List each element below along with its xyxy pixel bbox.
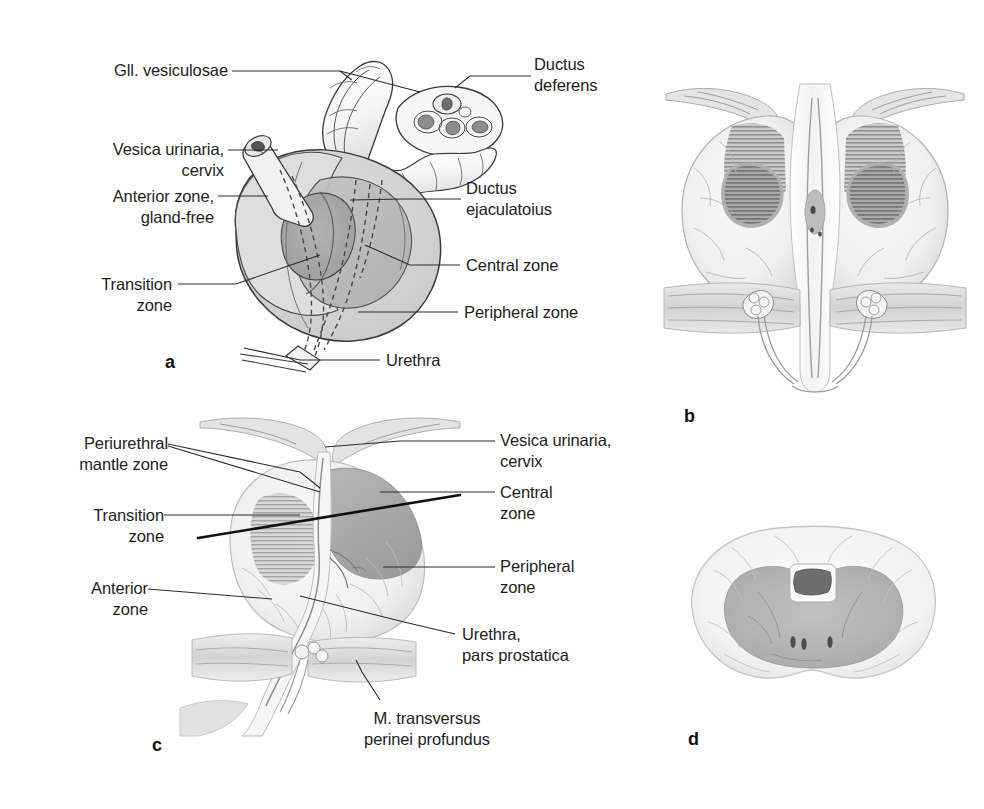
label-vesica-urinaria-cervix-a: Vesica urinaria,cervix bbox=[32, 139, 224, 181]
label-urethra-pars-prostatica: Urethra,pars prostatica bbox=[462, 624, 672, 666]
label-vesica-urinaria-cervix-c: Vesica urinaria,cervix bbox=[500, 430, 700, 472]
ductus-deferens-shape bbox=[396, 86, 503, 156]
label-ductus-deferens-line1: Ductus bbox=[534, 55, 585, 73]
label-ductus-deferens: Ductusdeferens bbox=[534, 54, 714, 96]
label-peripheral-zone-a: Peripheral zone bbox=[464, 302, 664, 323]
panel-letter-b: b bbox=[684, 406, 695, 427]
label-ductus-deferens-line2: deferens bbox=[534, 76, 597, 94]
label-peripheral-zone-c: Peripheralzone bbox=[500, 556, 660, 598]
panel-letter-d: d bbox=[688, 729, 699, 750]
label-vesica-urinaria-a-line1: Vesica urinaria, bbox=[113, 140, 224, 158]
label-anterior-zone-c-line1: Anterior bbox=[91, 579, 148, 597]
label-transition-zone-a-line2: zone bbox=[137, 296, 172, 314]
label-periurethral-mantle-zone: Periurethralmantle zone bbox=[18, 433, 168, 475]
label-ductus-ejaculatorius-line2: ejaculatoius bbox=[466, 200, 552, 218]
label-transversus-line2: perinei profundus bbox=[364, 730, 490, 748]
label-vesica-urinaria-a-line2: cervix bbox=[182, 161, 225, 179]
label-central-zone-a: Central zone bbox=[466, 255, 656, 276]
label-transversus-line1: M. transversus bbox=[374, 709, 481, 727]
transverse-gland-mass-shape bbox=[724, 564, 902, 668]
label-urethra-c-line2: pars prostatica bbox=[462, 646, 569, 664]
label-vesica-urinaria-c-line1: Vesica urinaria, bbox=[500, 431, 611, 449]
transition-zone-shape-c bbox=[250, 493, 318, 584]
label-anterior-zone-a-line2: gland-free bbox=[141, 208, 214, 226]
label-transition-zone-a: Transitionzone bbox=[24, 274, 172, 316]
panel-letter-a: a bbox=[165, 352, 175, 373]
urethra-canal-shape bbox=[790, 84, 840, 392]
label-anterior-zone-c: Anteriorzone bbox=[18, 578, 148, 620]
urethra-stump-shape bbox=[240, 346, 320, 372]
label-central-zone-c: Centralzone bbox=[500, 482, 660, 524]
label-peripheral-zone-c-line2: zone bbox=[500, 578, 535, 596]
label-transition-zone-a-line1: Transition bbox=[101, 275, 172, 293]
label-anterior-zone-a: Anterior zone,gland-free bbox=[24, 186, 214, 228]
label-ductus-ejaculatorius: Ductusejaculatoius bbox=[466, 178, 666, 220]
label-anterior-zone-c-line2: zone bbox=[113, 600, 148, 618]
label-periurethral-line1: Periurethral bbox=[84, 434, 168, 452]
penile-shaft-shadow-shape bbox=[180, 701, 248, 736]
label-urethra-c-line1: Urethra, bbox=[462, 625, 521, 643]
anatomy-figure: Gll. vesiculosae Ductusdeferens Vesica u… bbox=[0, 0, 984, 809]
label-urethra-a: Urethra bbox=[386, 350, 526, 371]
label-gll-vesiculosae: Gll. vesiculosae bbox=[32, 60, 228, 81]
label-anterior-zone-a-line1: Anterior zone, bbox=[113, 187, 214, 205]
label-central-zone-c-line1: Central bbox=[500, 483, 553, 501]
label-vesica-urinaria-c-line2: cervix bbox=[500, 452, 543, 470]
label-ductus-ejaculatorius-line1: Ductus bbox=[466, 179, 517, 197]
panel-b-illustration bbox=[650, 58, 980, 403]
label-periurethral-line2: mantle zone bbox=[79, 455, 168, 473]
panel-letter-c: c bbox=[152, 735, 162, 756]
label-transition-zone-c-line2: zone bbox=[129, 527, 164, 545]
label-m-transversus-perinei-profundus: M. transversusperinei profundus bbox=[322, 708, 532, 750]
label-central-zone-c-line2: zone bbox=[500, 504, 535, 522]
label-transition-zone-c-line1: Transition bbox=[93, 506, 164, 524]
panel-c-illustration bbox=[180, 408, 480, 738]
label-peripheral-zone-c-line1: Peripheral bbox=[500, 557, 574, 575]
label-transition-zone-c: Transitionzone bbox=[18, 505, 164, 547]
panel-d-illustration bbox=[662, 512, 962, 712]
